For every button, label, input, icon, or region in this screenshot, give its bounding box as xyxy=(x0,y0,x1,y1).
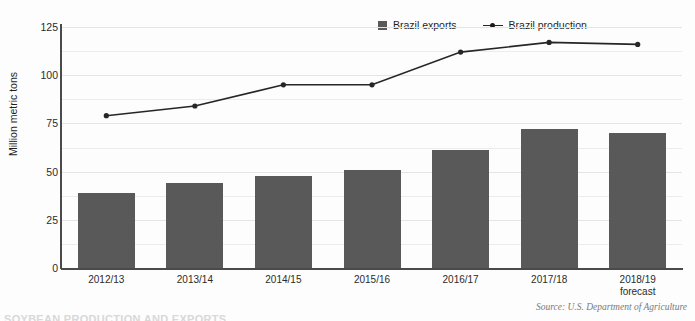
line-marker-2018-19[interactable] xyxy=(635,42,640,47)
x-tick-label-main: 2015/16 xyxy=(354,274,390,285)
x-tick-label-sub: forecast xyxy=(593,286,682,298)
x-axis-line xyxy=(61,268,683,270)
x-tick-label-2016-17: 2016/17 xyxy=(416,274,505,286)
x-tick-label-2014-15: 2014/15 xyxy=(239,274,328,286)
y-tick-label-125: 125 xyxy=(24,22,58,33)
clipped-heading-text: SOYBEAN PRODUCTION AND EXPORTS xyxy=(4,313,227,321)
line-marker-2016-17[interactable] xyxy=(458,50,463,55)
production-line-path xyxy=(106,42,637,115)
x-tick-label-main: 2016/17 xyxy=(443,274,479,285)
y-tick-label-100: 100 xyxy=(24,70,58,81)
x-tick-label-main: 2018/19 xyxy=(620,274,656,285)
chart-container: Brazil exports Brazil production Million… xyxy=(0,0,695,321)
x-tick-label-main: 2017/18 xyxy=(531,274,567,285)
x-tick-label-main: 2013/14 xyxy=(177,274,213,285)
line-marker-2014-15[interactable] xyxy=(281,82,286,87)
x-tick-label-2017-18: 2017/18 xyxy=(505,274,594,286)
line-marker-2017-18[interactable] xyxy=(547,40,552,45)
y-tick-label-0: 0 xyxy=(24,263,58,274)
y-tick-label-50: 50 xyxy=(24,167,58,178)
x-tick-label-main: 2014/15 xyxy=(265,274,301,285)
y-tick-label-25: 25 xyxy=(24,215,58,226)
x-tick-label-2012-13: 2012/13 xyxy=(62,274,151,286)
line-marker-2013-14[interactable] xyxy=(192,103,197,108)
y-tick-label-75: 75 xyxy=(24,118,58,129)
line-marker-2012-13[interactable] xyxy=(104,113,109,118)
line-series-brazil-production xyxy=(62,27,682,268)
line-marker-2015-16[interactable] xyxy=(369,82,374,87)
x-tick-label-main: 2012/13 xyxy=(88,274,124,285)
y-axis-tick-labels: 0255075100125 xyxy=(14,27,58,268)
x-axis-tick-labels: 2012/132013/142014/152015/162016/172017/… xyxy=(62,274,682,304)
x-tick-label-2015-16: 2015/16 xyxy=(328,274,417,286)
x-tick-label-2013-14: 2013/14 xyxy=(151,274,240,286)
source-note: Source: U.S. Department of Agriculture xyxy=(536,302,687,312)
x-tick-label-2018-19: 2018/19forecast xyxy=(593,274,682,298)
